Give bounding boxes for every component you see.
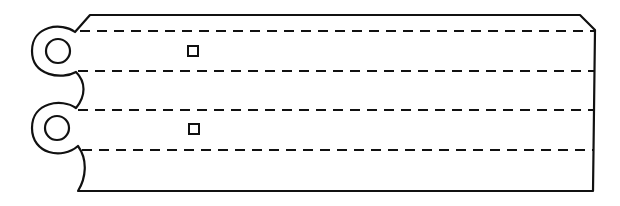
diagram-canvas	[0, 0, 620, 206]
upper-lug-hole-icon	[46, 39, 70, 63]
lower-lug-hole-icon	[45, 116, 69, 140]
tag-strip-diagram	[0, 0, 620, 206]
hang-holes	[45, 39, 70, 140]
tag-outline	[32, 15, 595, 191]
